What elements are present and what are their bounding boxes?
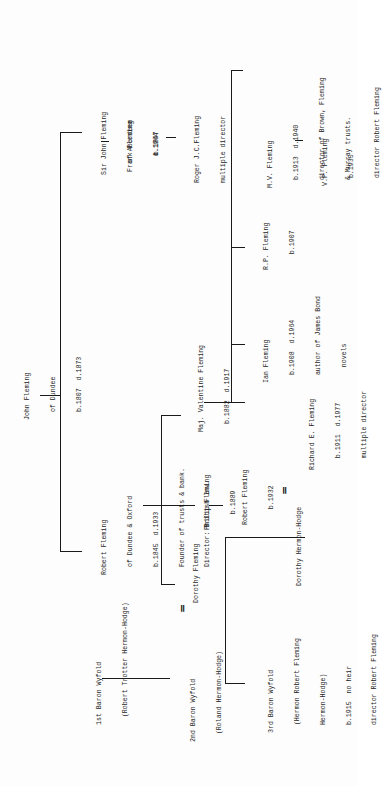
person-rp-fleming: R.P. Fleming b.1907: [246, 223, 315, 270]
person-ian-fleming: Ian Fleming b.1908 d.1964 author of Jame…: [246, 296, 366, 383]
connector-root-siblings: [60, 132, 61, 552]
connector-dorothy-fleming: [161, 584, 175, 585]
connector-mv: [231, 70, 243, 71]
person-john-fleming: John Fleming of Dundee b.1807 d.1873: [7, 357, 102, 420]
person-dorothy-fleming: Dorothy Fleming: [176, 544, 219, 603]
connector-sir-john: [60, 132, 82, 133]
person-baron-wyfold-3: 3rd Baron Wyfold (Hermon Robert Fleming …: [251, 634, 386, 733]
person-baron-wyfold-2: 2nd Baron Wyfold (Roland Hermon-Hodge): [173, 651, 242, 742]
person-dorothy-hermon-hodge: Dorothy Hermon-Hodge: [279, 507, 322, 586]
person-valentine-fleming: Maj. Valentine Fleming b.1882 d.1917: [181, 345, 250, 432]
person-baron-wyfold-1: 1st Baron Wyfold (Robert Trotter Hermon-…: [79, 602, 148, 725]
person-frank-fleming: Frank Fleming d.1964: [110, 121, 179, 172]
person-vp-fleming: V.P. Fleming b.1935 director Robert Flem…: [305, 87, 386, 186]
connector-robert: [60, 551, 82, 552]
person-richard-fleming: Richard E. Fleming b.1911 d.1977 multipl…: [292, 391, 386, 470]
connector-rp: [231, 247, 245, 248]
connector-valentine: [161, 415, 181, 416]
marriage-symbol-wyfold-dorothy: =: [176, 604, 189, 613]
person-roger-fleming: Roger J.C.Fleming multiple director: [177, 116, 246, 183]
